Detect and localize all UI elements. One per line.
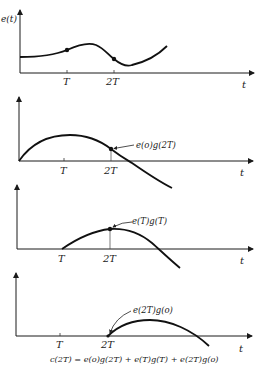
sample-point [106,334,109,337]
convolution-diagram: e(t) t T 2T t T 2T e(o)g(2T) t T 2T e(T)… [0,0,265,374]
tick-label-2T: 2T [103,165,118,176]
annotation-label: e(2T)g(o) [133,305,173,315]
panel-response-eT: t T 2T e(T)g(T) [17,185,253,268]
tick-label-2T: 2T [100,339,115,350]
tick-label-2T: 2T [105,76,120,87]
sample-point-2T [112,57,116,61]
annotation-arrow [110,311,131,333]
annotation-arrow [113,222,132,227]
tick-label-2T: 2T [102,253,117,264]
annotation-label: e(o)g(2T) [136,140,176,150]
annotation-arrow [114,145,134,149]
impulse-response-curve [108,320,209,346]
x-axis-label: t [240,167,245,178]
tick-label-T: T [63,76,71,87]
sample-point-T [65,48,69,52]
tick-label-T: T [58,253,66,264]
input-curve [20,44,167,66]
x-axis-label: t [239,343,244,354]
panel-response-e0: t T 2T e(o)g(2T) [19,97,253,188]
annotation-label: e(T)g(T) [132,216,167,226]
x-axis-label: t [240,255,245,266]
sample-point [109,147,113,151]
tick-label-T: T [56,339,64,350]
impulse-response-curve [62,229,180,268]
x-axis-label: t [242,79,247,90]
sample-point [108,227,112,231]
panel-input-signal: e(t) t T 2T [1,10,254,90]
panel-response-e2T: t T 2T e(2T)g(o) c(2T) = e(o)g(2T) + e(T… [16,273,252,364]
tick-label-T: T [60,165,68,176]
convolution-equation: c(2T) = e(o)g(2T) + e(T)g(T) + e(2T)g(o) [50,354,219,364]
y-axis-label: e(t) [1,14,17,24]
